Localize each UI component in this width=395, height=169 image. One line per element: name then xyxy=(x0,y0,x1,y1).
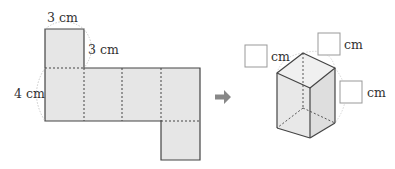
net-bottom-face xyxy=(161,121,200,160)
net-top-height-label: 3 cm xyxy=(88,42,119,57)
answer-box-1-unit: cm xyxy=(271,49,290,64)
arrow-right-icon xyxy=(215,90,231,104)
prism-net: 3 cm 3 cm 4 cm xyxy=(14,10,200,160)
answer-box-1[interactable]: cm xyxy=(245,45,290,67)
answer-box-3-unit: cm xyxy=(367,85,386,100)
net-to-prism-diagram: 3 cm 3 cm 4 cm xyxy=(0,0,395,169)
net-top-face xyxy=(45,29,84,68)
net-top-width-label: 3 cm xyxy=(47,10,78,25)
answer-box-2-unit: cm xyxy=(344,37,363,52)
rectangular-prism: cm cm cm xyxy=(245,33,386,138)
answer-box-3[interactable]: cm xyxy=(340,81,386,103)
answer-box-2[interactable]: cm xyxy=(318,33,363,55)
net-side-height-label: 4 cm xyxy=(14,86,45,101)
